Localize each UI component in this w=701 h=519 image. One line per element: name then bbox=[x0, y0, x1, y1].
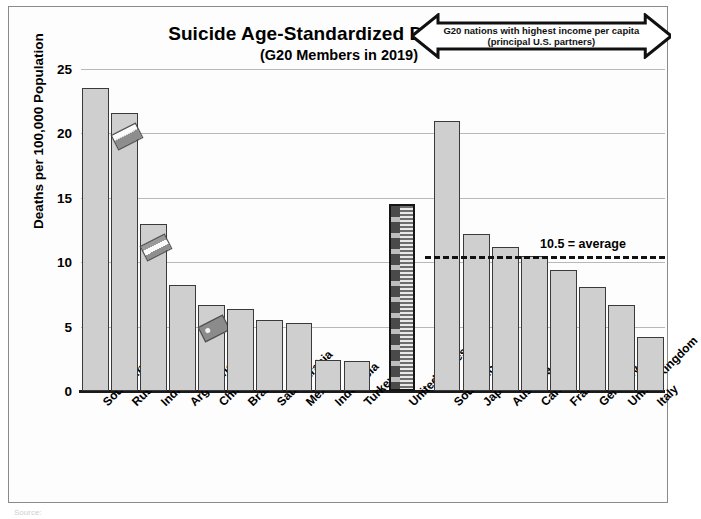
bar-china[interactable] bbox=[198, 305, 225, 391]
flag-icon-russia bbox=[110, 122, 143, 150]
bar-united-states[interactable]: 14.5 bbox=[389, 204, 416, 391]
source-caption: Source: bbox=[14, 508, 42, 518]
plot-area: 0510152025South AfricaRussiaIndiaArgenti… bbox=[81, 69, 665, 391]
gridline-25 bbox=[81, 69, 665, 70]
us-flag-canton bbox=[391, 206, 401, 389]
average-line bbox=[425, 256, 665, 259]
flag-icon-india bbox=[139, 233, 172, 261]
bar-argentina[interactable] bbox=[169, 285, 196, 391]
bar-united-kingdom[interactable] bbox=[608, 305, 635, 391]
bar-russia[interactable] bbox=[111, 113, 138, 391]
y-tick-label-0: 0 bbox=[64, 384, 72, 399]
bar-india[interactable] bbox=[140, 224, 167, 391]
bar-france[interactable] bbox=[550, 270, 577, 391]
bar-mexico[interactable] bbox=[286, 323, 313, 391]
y-tick-label-5: 5 bbox=[64, 319, 72, 334]
y-axis-title: Deaths per 100,000 Population bbox=[31, 33, 46, 229]
bar-turkey[interactable] bbox=[344, 361, 371, 391]
gridline-15 bbox=[81, 198, 665, 199]
bar-saudi-arabia[interactable] bbox=[256, 320, 283, 391]
bar-indonesia[interactable] bbox=[315, 360, 342, 391]
bar-brazil[interactable] bbox=[227, 309, 254, 391]
chart-frame: Suicide Age-Standardized Death Rate (G20… bbox=[8, 6, 668, 503]
double-arrow-icon bbox=[412, 13, 671, 59]
bar-canada[interactable] bbox=[521, 256, 548, 391]
y-tick-label-15: 15 bbox=[57, 190, 72, 205]
bar-germany[interactable] bbox=[579, 287, 606, 391]
flag-icon-china bbox=[197, 314, 230, 342]
y-tick-label-10: 10 bbox=[57, 255, 72, 270]
bar-south-africa[interactable] bbox=[82, 88, 109, 391]
y-tick-label-20: 20 bbox=[57, 126, 72, 141]
y-tick-label-25: 25 bbox=[57, 62, 72, 77]
average-line-label: 10.5 = average bbox=[540, 237, 626, 251]
gridline-20 bbox=[81, 133, 665, 134]
income-group-arrow-annotation: G20 nations with highest income per capi… bbox=[412, 13, 671, 59]
bar-italy[interactable] bbox=[637, 337, 664, 391]
bar-australia[interactable] bbox=[492, 247, 519, 391]
gridline-10 bbox=[81, 262, 665, 263]
